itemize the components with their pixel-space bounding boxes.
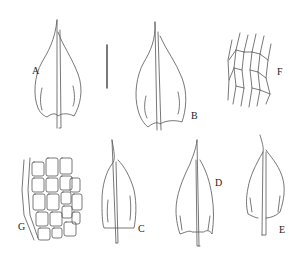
cells-g-drawing [22,158,82,240]
cells-f-drawing [228,33,271,107]
label-d: D [215,178,222,188]
botanical-figure: A B C D E F G [0,0,303,261]
label-c: C [138,224,145,234]
figure-drawing [0,0,303,261]
leaf-c-drawing [102,140,136,243]
label-a: A [32,66,39,76]
label-b: B [191,111,198,121]
leaf-b-drawing [136,22,186,130]
leaf-a-drawing [35,20,81,128]
leaf-d-drawing [176,140,214,246]
label-g: G [18,222,25,232]
leaf-e-drawing [247,135,285,235]
label-e: E [279,225,285,235]
label-f: F [277,67,283,77]
